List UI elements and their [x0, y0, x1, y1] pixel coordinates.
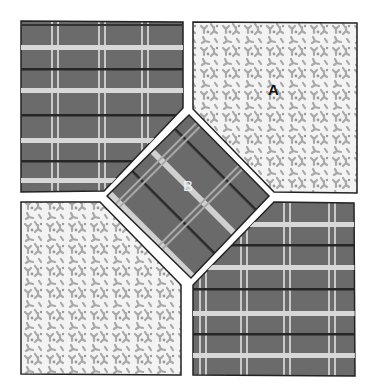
quilt-svg: [0, 0, 378, 390]
label-b: B: [183, 177, 193, 194]
quilt-diagram: A B: [0, 0, 378, 390]
label-a: A: [268, 81, 279, 98]
